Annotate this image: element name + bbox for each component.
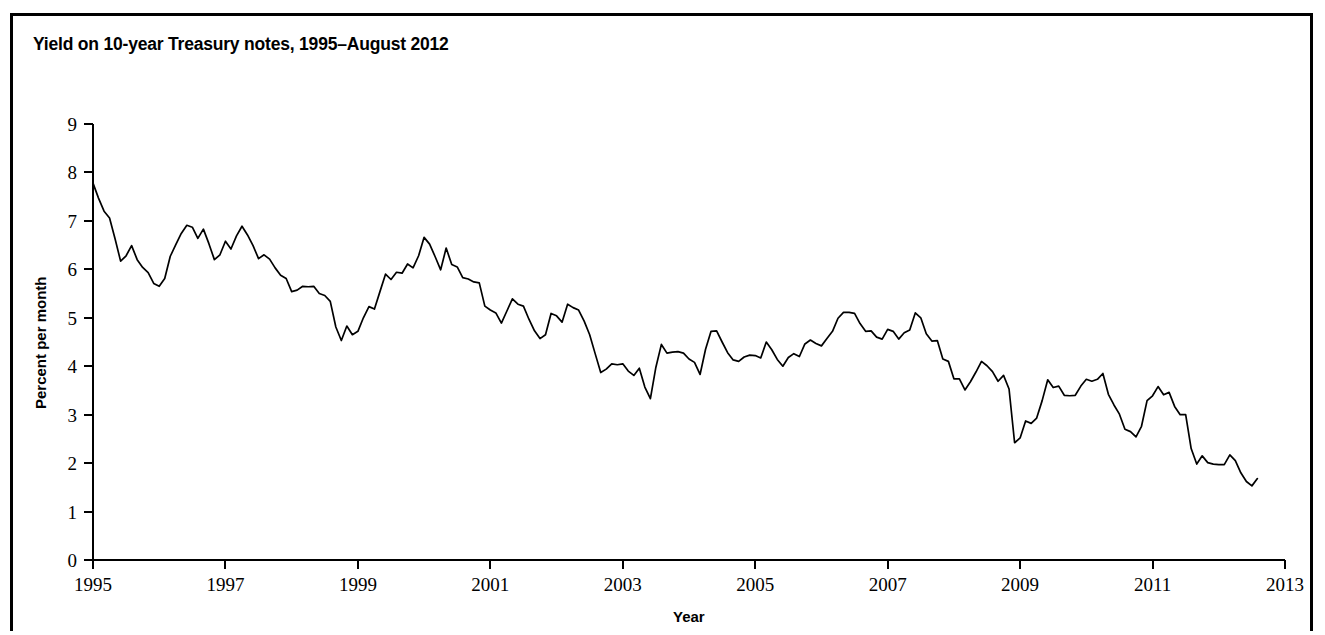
x-tick-label: 2005 (736, 574, 774, 595)
y-axis-label: Percent per month (32, 276, 49, 409)
y-tick-label: 8 (68, 162, 78, 183)
y-tick-label: 6 (68, 259, 78, 280)
y-axis-ticks: 0123456789 (68, 114, 94, 571)
x-tick-label: 1999 (339, 574, 377, 595)
x-tick-label: 2009 (1001, 574, 1039, 595)
x-tick-label: 2011 (1134, 574, 1171, 595)
y-tick-label: 9 (68, 114, 78, 135)
x-tick-label: 2013 (1266, 574, 1304, 595)
series-line-treasury-yield (93, 183, 1257, 486)
y-tick-label: 5 (68, 308, 78, 329)
x-axis-label: Year (673, 608, 705, 625)
y-tick-label: 1 (68, 502, 78, 523)
chart-plot-area: 0123456789 19951997199920012003200520072… (0, 0, 1325, 635)
x-tick-label: 1997 (206, 574, 244, 595)
chart-figure: Yield on 10-year Treasury notes, 1995–Au… (0, 0, 1325, 635)
x-tick-label: 2001 (471, 574, 509, 595)
y-tick-label: 4 (68, 356, 78, 377)
x-tick-label: 2003 (604, 574, 642, 595)
y-tick-label: 2 (68, 453, 78, 474)
x-tick-label: 2007 (869, 574, 907, 595)
x-tick-label: 1995 (74, 574, 112, 595)
y-tick-label: 0 (68, 550, 78, 571)
y-tick-label: 7 (68, 211, 78, 232)
y-tick-label: 3 (68, 405, 78, 426)
x-axis-ticks: 1995199719992001200320052007200920112013 (74, 560, 1304, 595)
